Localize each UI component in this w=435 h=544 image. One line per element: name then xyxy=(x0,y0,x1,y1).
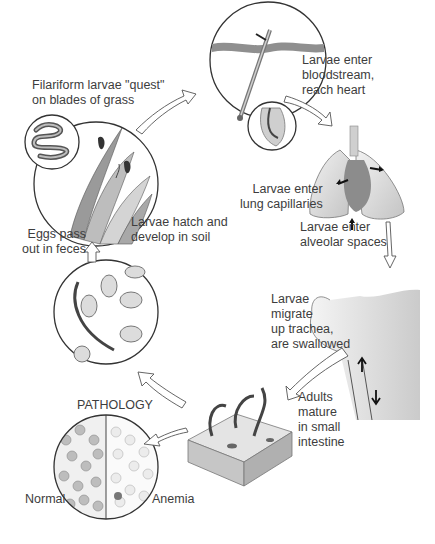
arrow-icon xyxy=(144,428,188,446)
eggs-microscope-icon xyxy=(54,260,158,364)
blood-smear-icon xyxy=(54,415,158,519)
lungs-heart-icon xyxy=(310,126,404,230)
label-trachea: Larvae migrate up trachea, are swallowed xyxy=(271,292,350,352)
label-adults-mature: Adults mature in small intestine xyxy=(298,390,345,450)
label-alveolar-spaces: Larvae enter alveolar spaces xyxy=(300,220,387,250)
label-bloodstream: Larvae enter bloodstream, reach heart xyxy=(302,53,374,98)
hookworm-life-cycle-diagram: Filariform larvae "quest" on blades of g… xyxy=(0,0,435,544)
label-anemia: Anemia xyxy=(152,492,194,507)
label-larvae-hatch: Larvae hatch and develop in soil xyxy=(131,215,228,245)
intestine-worms-icon xyxy=(188,388,292,486)
label-lung-capillaries: Larvae enter lung capillaries xyxy=(240,182,323,212)
pathology-title: PATHOLOGY xyxy=(77,398,153,413)
label-eggs-pass: Eggs pass out in feces xyxy=(22,227,86,257)
label-normal: Normal xyxy=(25,492,65,507)
label-filariform-larvae-quest: Filariform larvae "quest" on blades of g… xyxy=(32,78,165,108)
